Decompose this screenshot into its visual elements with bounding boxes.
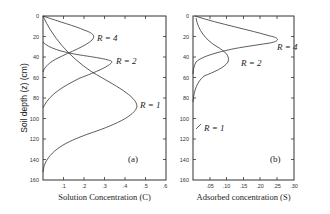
svg-text:.4: .4 xyxy=(123,183,128,189)
svg-text:.3: .3 xyxy=(102,183,107,189)
svg-text:0: 0 xyxy=(36,13,39,19)
y-axis-label: Soil depth (z) (cm) xyxy=(19,63,29,133)
svg-text:.1: .1 xyxy=(61,183,66,189)
svg-text:.6: .6 xyxy=(163,183,168,189)
x-tick-labels-a: .1 .2 .3 .4 .5 .6 xyxy=(61,183,167,189)
label-b-r4: R = 4 xyxy=(276,42,298,52)
svg-text:60: 60 xyxy=(183,75,189,81)
label-a-r1: R = 1 xyxy=(139,100,161,110)
svg-text:120: 120 xyxy=(180,136,189,142)
svg-text:.25: .25 xyxy=(273,183,281,189)
x-ticks-b xyxy=(210,16,277,180)
panel-label-b: (b) xyxy=(270,154,281,164)
svg-text:.15: .15 xyxy=(240,183,248,189)
svg-text:.05: .05 xyxy=(206,183,214,189)
label-b-r2: R = 2 xyxy=(240,58,262,68)
curve-b-r4 xyxy=(193,16,278,74)
svg-text:40: 40 xyxy=(183,54,189,60)
svg-text:140: 140 xyxy=(180,157,189,163)
svg-text:20: 20 xyxy=(33,34,39,40)
figure: 0 20 40 60 80 100 120 140 160 .1 .2 .3 .… xyxy=(0,0,330,214)
svg-text:40: 40 xyxy=(33,54,39,60)
y-ticks-b xyxy=(193,37,294,160)
panel-b: 0 20 40 60 80 100 120 140 160 .05 .10 .1… xyxy=(180,13,298,202)
svg-text:100: 100 xyxy=(180,116,189,122)
svg-text:0: 0 xyxy=(186,13,189,19)
curve-b-r1-pointer xyxy=(196,124,201,129)
svg-text:120: 120 xyxy=(30,136,39,142)
x-axis-label-b: Adsorbed concentration (S) xyxy=(197,192,291,202)
y-ticks-a xyxy=(43,37,166,160)
svg-text:.30: .30 xyxy=(290,183,298,189)
panel-a: 0 20 40 60 80 100 120 140 160 .1 .2 .3 .… xyxy=(19,13,167,202)
y-tick-labels-b: 0 20 40 60 80 100 120 140 160 xyxy=(180,13,189,183)
x-axis-label-a: Solution Concentration (C) xyxy=(58,192,151,202)
svg-text:.2: .2 xyxy=(82,183,87,189)
svg-text:.5: .5 xyxy=(143,183,148,189)
svg-text:.10: .10 xyxy=(223,183,231,189)
y-tick-labels-a: 0 20 40 60 80 100 120 140 160 xyxy=(30,13,39,183)
svg-text:60: 60 xyxy=(33,75,39,81)
svg-text:20: 20 xyxy=(183,34,189,40)
panel-label-a: (a) xyxy=(128,154,138,164)
curve-a-r2 xyxy=(43,42,112,108)
svg-text:160: 160 xyxy=(180,177,189,183)
svg-text:80: 80 xyxy=(183,95,189,101)
label-b-r1: R = 1 xyxy=(203,123,225,133)
label-a-r4: R = 4 xyxy=(96,33,118,43)
label-a-r2: R = 2 xyxy=(115,56,137,66)
svg-text:80: 80 xyxy=(33,95,39,101)
svg-text:160: 160 xyxy=(30,177,39,183)
curve-a-r1 xyxy=(43,16,137,172)
svg-text:100: 100 xyxy=(30,116,39,122)
svg-text:.20: .20 xyxy=(256,183,264,189)
curve-a-r4 xyxy=(43,16,94,72)
svg-text:140: 140 xyxy=(30,157,39,163)
x-tick-labels-b: .05 .10 .15 .20 .25 .30 xyxy=(206,183,298,189)
